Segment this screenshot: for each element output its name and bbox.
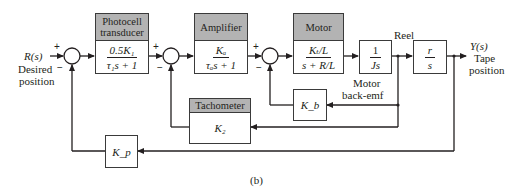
amplifier-block: Amplifier Kₐ τₐs + 1 [194, 13, 248, 74]
sum3-minus-sign: − [256, 62, 262, 73]
input-desc-line1: Desired [18, 63, 52, 75]
reel-block: r s [413, 40, 447, 74]
photocell-transducer-block: Photocell transducer 0.5K₁ τ₁s + 1 [95, 13, 149, 74]
figure-caption: (b) [250, 174, 263, 186]
inertia-block: 1 Js [359, 40, 392, 74]
diagram-wiring [0, 0, 512, 193]
sum1-plus-sign: + [54, 41, 60, 52]
amplifier-header: Amplifier [195, 14, 247, 41]
tachometer-block: Tachometer K₂ [189, 98, 251, 144]
reel-label: Reel [394, 29, 414, 41]
kb-gain: K_b [294, 90, 326, 120]
position-feedback-gain-block: K_p [105, 135, 138, 168]
sum2-minus-sign: − [157, 62, 163, 73]
photocell-header: Photocell transducer [96, 14, 148, 41]
kp-gain: K_p [106, 136, 137, 167]
back-emf-label-line1: Motor [353, 77, 381, 89]
summing-junction-2 [163, 48, 179, 64]
motor-transfer-function: Kₜ/L s + R/L [299, 44, 338, 71]
photocell-transfer-function: 0.5K₁ τ₁s + 1 [104, 44, 140, 71]
motor-block: Motor Kₜ/L s + R/L [293, 13, 344, 74]
summing-junction-3 [262, 48, 278, 64]
back-emf-gain-block: K_b [293, 89, 327, 121]
output-desc-line2: position [469, 64, 504, 76]
output-desc-line1: Tape [474, 52, 495, 64]
sum1-minus-sign: − [57, 62, 63, 73]
amplifier-transfer-function: Kₐ τₐs + 1 [203, 44, 239, 71]
sum3-plus-sign: + [253, 41, 259, 52]
back-emf-label-line2: back-emf [342, 89, 384, 101]
k2-gain: K₂ [190, 113, 250, 143]
inertia-transfer-function: 1 Js [368, 44, 383, 71]
tachometer-header: Tachometer [190, 99, 250, 113]
reel-transfer-function: r s [425, 44, 435, 71]
summing-junction-1 [64, 48, 80, 64]
sum2-plus-sign: + [153, 41, 159, 52]
input-desc-line2: position [19, 75, 54, 87]
motor-header: Motor [294, 14, 343, 41]
output-signal-label: Y(s) [470, 40, 488, 52]
input-signal-label: R(s) [24, 50, 42, 62]
